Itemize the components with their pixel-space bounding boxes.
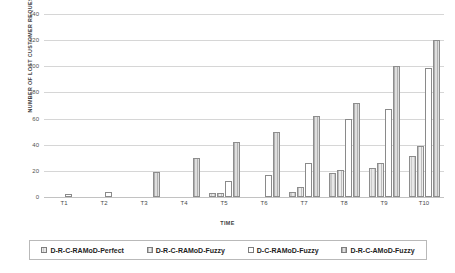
legend-item[interactable]: D-C-RAMoD-Fuzzy <box>248 247 319 254</box>
bar-group-t5 <box>204 14 244 197</box>
bar <box>153 172 160 197</box>
bar <box>265 175 272 197</box>
bar <box>425 68 432 197</box>
chart-legend: D-R-C-RAMoD-PerfectD-R-C-RAMoD-FuzzyD-C-… <box>29 240 427 260</box>
legend-label: D-C-RAMoD-Fuzzy <box>257 247 319 254</box>
x-tick-label: T10 <box>419 200 429 206</box>
legend-label: D-R-C-RAMoD-Perfect <box>50 247 124 254</box>
bar <box>217 193 224 197</box>
x-tick-label: T8 <box>340 200 347 206</box>
bar-group-t9 <box>364 14 404 197</box>
bar <box>273 132 280 197</box>
x-tick-label: T4 <box>180 200 187 206</box>
plot-area: 020406080100120140 <box>44 14 444 197</box>
y-tick-label: 20 <box>32 168 39 174</box>
bar <box>417 146 424 197</box>
x-axis-tick-labels: T1T2T3T4T5T6T7T8T9T10 <box>44 200 444 214</box>
x-tick-label: T7 <box>300 200 307 206</box>
legend-item[interactable]: D-R-C-RAMoD-Fuzzy <box>147 247 225 254</box>
x-tick-label: T2 <box>100 200 107 206</box>
bar-group-t2 <box>84 14 124 197</box>
bar-group-t8 <box>324 14 364 197</box>
x-tick-label: T3 <box>140 200 147 206</box>
y-tick-label: 40 <box>32 142 39 148</box>
legend-swatch-icon <box>341 247 347 253</box>
bar <box>233 142 240 197</box>
legend-label: D-R-C-RAMoD-Fuzzy <box>156 247 225 254</box>
bar <box>329 173 336 197</box>
bar <box>409 156 416 197</box>
y-tick-label: 100 <box>29 63 39 69</box>
x-axis-title: TIME <box>0 220 455 226</box>
gridline: 0 <box>44 197 444 198</box>
legend-label: D-R-C-AMoD-Fuzzy <box>350 247 414 254</box>
y-tick-label: 120 <box>29 37 39 43</box>
y-tick-label: 0 <box>36 194 39 200</box>
bar-group-t1 <box>44 14 84 197</box>
bar <box>369 168 376 197</box>
bar <box>377 163 384 197</box>
bar <box>65 194 72 197</box>
legend-item[interactable]: D-R-C-RAMoD-Perfect <box>41 247 124 254</box>
x-tick-label: T6 <box>260 200 267 206</box>
y-tick-label: 140 <box>29 11 39 17</box>
bar-group-t4 <box>164 14 204 197</box>
bar-group-t10 <box>404 14 444 197</box>
bar <box>313 116 320 197</box>
bar <box>353 103 360 197</box>
legend-swatch-icon <box>248 247 254 253</box>
y-tick-label: 80 <box>32 89 39 95</box>
bar-groups <box>44 14 444 197</box>
y-tick-label: 60 <box>32 116 39 122</box>
x-tick-label: T5 <box>220 200 227 206</box>
bar <box>393 66 400 197</box>
bar <box>433 40 440 197</box>
bar-chart: NUMBER OF LOST CUSTOMER REQUESTS 0204060… <box>0 0 455 273</box>
x-tick-label: T9 <box>380 200 387 206</box>
bar <box>337 170 344 197</box>
x-tick-label: T1 <box>60 200 67 206</box>
bar-group-t7 <box>284 14 324 197</box>
bar <box>297 187 304 197</box>
bar-group-t6 <box>244 14 284 197</box>
bar <box>225 181 232 197</box>
bar <box>385 109 392 197</box>
legend-swatch-icon <box>147 247 153 253</box>
bar <box>289 192 296 197</box>
bar <box>105 192 112 197</box>
bar <box>305 163 312 197</box>
legend-swatch-icon <box>41 247 47 253</box>
bar <box>345 119 352 197</box>
bar <box>209 193 216 197</box>
bar <box>193 158 200 197</box>
bar-group-t3 <box>124 14 164 197</box>
legend-item[interactable]: D-R-C-AMoD-Fuzzy <box>341 247 414 254</box>
